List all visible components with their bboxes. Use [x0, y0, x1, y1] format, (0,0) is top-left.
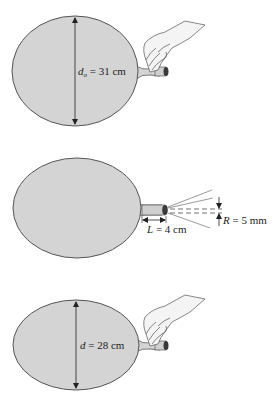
jet-centerlines: [170, 209, 222, 213]
hand-icon: [144, 21, 205, 72]
nozzle-icon: [142, 205, 165, 215]
nozzle-end: [162, 205, 168, 215]
hand-icon: [144, 295, 205, 346]
radius-label: R = 5 mm: [222, 214, 267, 226]
final-diameter-label: d = 28 cm: [80, 339, 125, 351]
panel-final: d = 28 cm: [13, 295, 205, 390]
nozzle-end: [164, 67, 169, 76]
balloon-deflation-diagram: do = 31 cm R = 5 mm L = 4 cm: [0, 0, 274, 404]
panel-deflating: R = 5 mm L = 4 cm: [13, 158, 267, 258]
nozzle-end: [164, 341, 169, 350]
length-label: L = 4 cm: [146, 223, 187, 235]
panel-initial: do = 31 cm: [12, 16, 205, 126]
balloon-icon: [13, 158, 141, 258]
